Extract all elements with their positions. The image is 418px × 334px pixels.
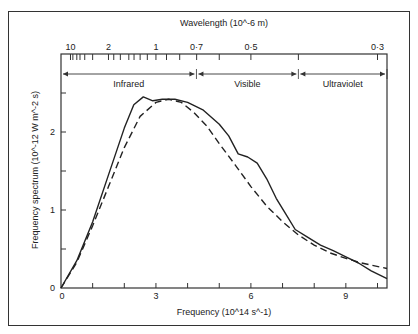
- band-label-visible: Visible: [234, 79, 260, 89]
- x-tick-label: 9: [343, 291, 348, 301]
- arrow-head-right: [189, 72, 194, 77]
- y-tick-label: 2: [50, 127, 55, 137]
- observed-spectrum-solid: [61, 97, 387, 288]
- plot-axes: 036901210210·70·50·3InfraredVisibleUltra…: [50, 42, 387, 301]
- arrow-head-left: [300, 72, 305, 77]
- band-label-infrared: Infrared: [113, 79, 144, 89]
- top-tick-label: 10: [65, 42, 75, 52]
- band-label-ultraviolet: Ultraviolet: [323, 79, 364, 89]
- y-axis-title: Frequency spectrum (10^-12 W m^-2 s): [30, 91, 40, 249]
- top-tick-label: 1: [153, 42, 158, 52]
- top-tick-label: 0·3: [371, 42, 384, 52]
- y-tick-label: 0: [50, 283, 55, 293]
- top-tick-label: 0·7: [190, 42, 203, 52]
- arrow-head-right: [380, 72, 385, 77]
- arrow-head-right: [291, 72, 296, 77]
- x-tick-label: 0: [59, 291, 64, 301]
- spectrum-chart: 036901210210·70·50·3InfraredVisibleUltra…: [0, 0, 418, 334]
- top-axis-title: Wavelength (10^-6 m): [180, 18, 268, 28]
- x-tick-label: 6: [248, 291, 253, 301]
- top-tick-label: 0·5: [244, 42, 257, 52]
- blackbody-curve-dashed: [61, 99, 387, 288]
- x-axis-title: Frequency (10^14 s^-1): [177, 307, 272, 317]
- plot-curves: [61, 97, 387, 288]
- arrow-head-left: [63, 72, 68, 77]
- y-tick-label: 1: [50, 205, 55, 215]
- top-tick-label: 2: [106, 42, 111, 52]
- x-tick-label: 3: [153, 291, 158, 301]
- arrow-head-left: [198, 72, 203, 77]
